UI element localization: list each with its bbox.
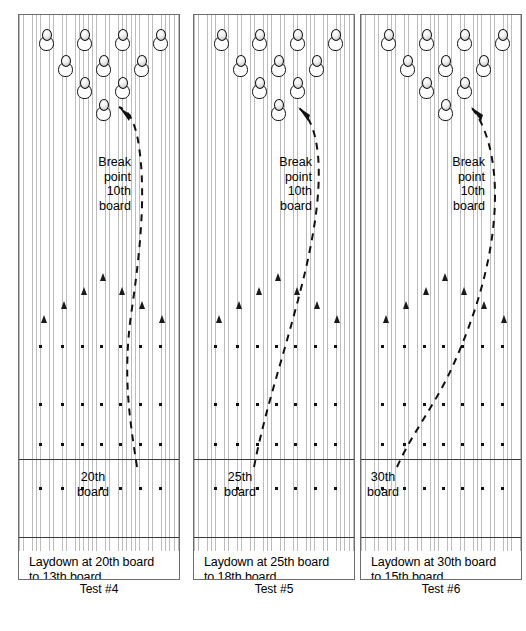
break-point-label-line: Break xyxy=(98,155,131,170)
board-number-value: 25th xyxy=(224,470,256,485)
laydown-caption-line1: Laydown at 20th board xyxy=(29,555,179,570)
laydown-caption-line1: Laydown at 30th board xyxy=(371,555,521,570)
ball-path-arrowhead xyxy=(298,107,310,121)
break-point-label-line: 10th xyxy=(452,184,485,199)
laydown-caption-line2: to 15th board. xyxy=(371,570,521,580)
board-number-marker: 25thboard xyxy=(224,470,256,499)
break-point-label-line: Break xyxy=(279,155,312,170)
lane-diagram-test-4: Breakpoint10thboard20thboardLaydown at 2… xyxy=(18,14,180,592)
break-point-label-line: 10th xyxy=(279,184,312,199)
break-point-label: Breakpoint10thboard xyxy=(452,155,485,213)
board-number-marker: 30thboard xyxy=(367,470,399,499)
ball-path-arrowhead xyxy=(471,107,483,121)
break-point-label-line: 10th xyxy=(98,184,131,199)
lane-diagram-test-5: Breakpoint10thboard25thboardLaydown at 2… xyxy=(193,14,355,592)
board-number-value: 20th xyxy=(77,470,109,485)
test-label: Test #5 xyxy=(193,582,355,596)
laydown-caption-line1: Laydown at 25th board xyxy=(204,555,354,570)
break-point-label-line: point xyxy=(452,170,485,185)
lane-surface: Breakpoint10thboard25thboardLaydown at 2… xyxy=(193,14,355,580)
ball-path-layer xyxy=(194,15,354,579)
laydown-caption: Laydown at 25th boardto 18th board. xyxy=(194,551,354,580)
break-point-label-line: point xyxy=(279,170,312,185)
break-point-label-line: board xyxy=(98,199,131,214)
break-point-label: Breakpoint10thboard xyxy=(98,155,131,213)
break-point-label-line: board xyxy=(279,199,312,214)
board-number-unit: board xyxy=(367,485,399,500)
board-number-unit: board xyxy=(77,485,109,500)
test-label: Test #6 xyxy=(360,582,522,596)
break-point-label-line: point xyxy=(98,170,131,185)
laydown-caption: Laydown at 20th boardto 13th board. xyxy=(19,551,179,580)
laydown-caption-line2: to 13th board. xyxy=(29,570,179,580)
break-point-label-line: board xyxy=(452,199,485,214)
test-label: Test #4 xyxy=(18,582,180,596)
break-point-label-line: Break xyxy=(452,155,485,170)
ball-path-arrowhead xyxy=(119,107,131,121)
bowling-lane-diagram: Breakpoint10thboard20thboardLaydown at 2… xyxy=(0,0,526,631)
lane-diagram-test-6: Breakpoint10thboard30thboardLaydown at 3… xyxy=(360,14,522,592)
laydown-caption: Laydown at 30th boardto 15th board. xyxy=(361,551,521,580)
board-number-value: 30th xyxy=(367,470,399,485)
board-number-unit: board xyxy=(224,485,256,500)
lane-surface: Breakpoint10thboard20thboardLaydown at 2… xyxy=(18,14,180,580)
break-point-label: Breakpoint10thboard xyxy=(279,155,312,213)
board-number-marker: 20thboard xyxy=(77,470,109,499)
lane-surface: Breakpoint10thboard30thboardLaydown at 3… xyxy=(360,14,522,580)
laydown-caption-line2: to 18th board. xyxy=(204,570,354,580)
